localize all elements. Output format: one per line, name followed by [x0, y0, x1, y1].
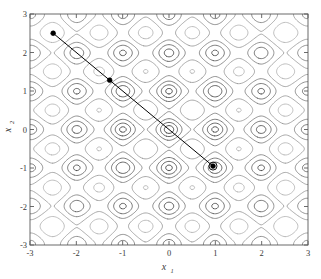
- x-tick-label: 0: [167, 248, 171, 258]
- x-tick-label: -3: [26, 248, 33, 258]
- x-tick-label: -2: [73, 248, 80, 258]
- x-tick-label: 1: [213, 248, 217, 258]
- x-tick-label: 2: [260, 248, 264, 258]
- y-tick-label: -2: [20, 202, 27, 212]
- y-axis-title-text: x: [2, 127, 13, 133]
- path-point-start: [51, 31, 56, 36]
- contour-plot-canvas: -3-2-10123-3-2-10123 x 1 x 2: [0, 0, 321, 279]
- y-tick-label: 0: [23, 125, 27, 135]
- y-tick-label: 3: [23, 9, 27, 19]
- y-tick-label: 1: [23, 86, 27, 96]
- y-tick-label: 2: [23, 48, 27, 58]
- y-tick-label: -3: [20, 240, 27, 250]
- x-axis-title-subscript: 1: [171, 267, 174, 274]
- x-tick-label: -1: [119, 248, 126, 258]
- path-point-final: [211, 164, 216, 169]
- x-axis-title-text: x: [161, 261, 167, 272]
- figure-container: -3-2-10123-3-2-10123 x 1 x 2: [0, 0, 321, 279]
- path-point-iterate: [107, 78, 112, 83]
- x-tick-label: 3: [306, 248, 310, 258]
- y-tick-label: -1: [20, 163, 27, 173]
